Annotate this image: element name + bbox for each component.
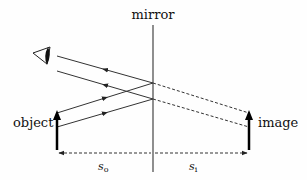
object-arrow	[53, 110, 61, 150]
reflected-rays	[57, 56, 153, 99]
diagram-svg: mirror object image so si	[0, 0, 307, 180]
eye-icon	[33, 47, 50, 65]
mirror-diagram: mirror object image so si	[0, 0, 307, 180]
image-arrow	[245, 110, 253, 150]
object-distance-label: so	[98, 160, 109, 174]
image-distance-subscript: i	[195, 165, 198, 174]
object-label: object	[13, 115, 54, 130]
virtual-rays	[153, 83, 249, 127]
object-distance-subscript: o	[104, 165, 109, 174]
image-label: image	[258, 115, 299, 130]
incident-rays	[57, 83, 153, 127]
image-distance-label: si	[189, 160, 198, 174]
mirror-label: mirror	[132, 7, 176, 22]
